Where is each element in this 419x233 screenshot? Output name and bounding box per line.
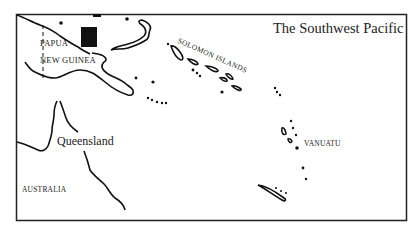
label-papua: PAPUA: [40, 38, 68, 48]
vanuatu-islands-group: [282, 128, 292, 143]
queensland-east-coast: [84, 151, 125, 210]
label-new-guinea: NEW GUINEA: [40, 55, 96, 65]
new-guinea-north-coast: [17, 15, 90, 54]
label-australia: AUSTRALIA: [22, 185, 66, 194]
new-caledonia-island: [258, 185, 285, 201]
label-queensland: Queensland: [57, 134, 114, 149]
cape-york-east: [60, 101, 78, 132]
map-title: The Southwest Pacific: [273, 20, 403, 37]
cape-york-coast: [17, 101, 57, 151]
label-vanuatu: VANUATU: [304, 139, 341, 148]
new-britain-island: [111, 20, 151, 50]
location-marker: [81, 27, 97, 47]
